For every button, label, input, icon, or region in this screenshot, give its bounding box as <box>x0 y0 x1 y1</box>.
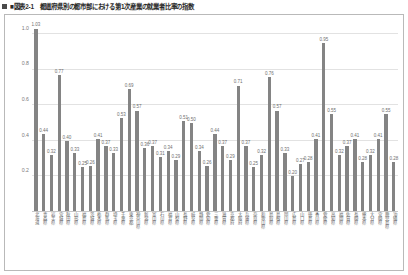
x-axis-tick-label: 福岡県 <box>337 212 342 224</box>
y-axis-tick-label: 0.4 <box>22 133 29 138</box>
bar[interactable]: 0.69 <box>128 89 131 212</box>
bar[interactable]: 0.20 <box>291 176 294 212</box>
bar[interactable]: 0.51 <box>182 121 185 212</box>
x-axis-tick-label: 滋賀県 <box>220 212 225 224</box>
x-axis-tick-label: 岐阜県 <box>189 212 194 224</box>
bar-slot: 0.31 <box>157 25 165 212</box>
bar-slot: 0.28 <box>390 25 398 212</box>
bar[interactable]: 0.95 <box>322 43 325 212</box>
x-axis-label-slot: 福岡県 <box>335 212 343 266</box>
bar[interactable]: 0.34 <box>167 151 170 212</box>
bar[interactable]: 0.34 <box>198 151 201 212</box>
bar[interactable]: 0.37 <box>221 146 224 212</box>
bar[interactable]: 0.25 <box>252 167 255 212</box>
bar[interactable]: 0.33 <box>112 153 115 212</box>
bar[interactable]: 0.37 <box>244 146 247 212</box>
x-axis-tick-label: 福島県 <box>80 212 85 224</box>
bar[interactable]: 0.32 <box>50 155 53 212</box>
bar[interactable]: 0.26 <box>205 166 208 212</box>
x-axis-label-slot: 石川県 <box>157 212 165 266</box>
bar[interactable]: 0.25 <box>81 167 84 212</box>
bar[interactable]: 0.57 <box>275 111 278 213</box>
bar-slot: 0.76 <box>265 25 273 212</box>
bar[interactable]: 0.55 <box>384 114 387 212</box>
bar[interactable]: 1.03 <box>34 29 37 212</box>
x-axis-tick-label: 奈良県 <box>251 212 256 224</box>
x-axis-tick-label: 富山県 <box>150 212 155 224</box>
bar[interactable]: 0.44 <box>42 134 45 212</box>
bar[interactable]: 0.37 <box>345 146 348 212</box>
bar[interactable]: 0.31 <box>159 157 162 212</box>
x-axis-label-slot: 大分県 <box>367 212 375 266</box>
bar-slot: 0.36 <box>141 25 149 212</box>
bar[interactable]: 0.44 <box>213 134 216 212</box>
bar-slot: 0.41 <box>374 25 382 212</box>
x-axis-tick-label: 栃木県 <box>96 212 101 224</box>
bar[interactable]: 0.33 <box>283 153 286 212</box>
bar[interactable]: 0.36 <box>143 148 146 212</box>
x-axis-label-slot: 島根県 <box>273 212 281 266</box>
y-axis-tick-label: 0.6 <box>22 97 29 102</box>
bar[interactable]: 0.32 <box>338 155 341 212</box>
bar[interactable]: 0.77 <box>58 75 61 212</box>
bar[interactable]: 0.40 <box>65 141 68 212</box>
bar[interactable]: 0.32 <box>260 155 263 212</box>
bar[interactable]: 0.28 <box>307 162 310 212</box>
bar-slot: 0.37 <box>219 25 227 212</box>
bar-slot: 0.41 <box>312 25 320 212</box>
bar[interactable]: 0.55 <box>330 114 333 212</box>
x-axis-label-slot: 大阪府 <box>234 212 242 266</box>
bar-slot: 0.37 <box>102 25 110 212</box>
x-axis-tick-label: 山梨県 <box>174 212 179 224</box>
bar[interactable]: 0.41 <box>96 139 99 212</box>
x-axis-label-slot: 長崎県 <box>351 212 359 266</box>
bar[interactable]: 0.28 <box>361 162 364 212</box>
chart-frame: 0.20.40.60.81.0 1.030.440.320.770.400.33… <box>4 14 404 271</box>
x-axis-label-slot: 三重県 <box>211 212 219 266</box>
x-axis-label-slot: 岐阜県 <box>188 212 196 266</box>
bar[interactable]: 0.27 <box>299 164 302 212</box>
x-axis-tick-label: 山形県 <box>72 212 77 224</box>
bar-slot: 0.25 <box>250 25 258 212</box>
x-axis-tick-label: 岡山県 <box>283 212 288 224</box>
bar[interactable]: 0.32 <box>369 155 372 212</box>
bar[interactable]: 0.57 <box>135 111 138 213</box>
bar[interactable]: 0.33 <box>73 153 76 212</box>
bar[interactable]: 0.29 <box>174 160 177 212</box>
bar-slot: 0.44 <box>40 25 48 212</box>
bar-slot: 0.37 <box>149 25 157 212</box>
bar[interactable]: 0.71 <box>237 86 240 212</box>
bar[interactable]: 0.41 <box>314 139 317 212</box>
page-title: ■図表2-1 都道府県別の都市部における第1次産業の就業者比率の指数 <box>10 2 194 11</box>
x-axis-tick-label: 大分県 <box>368 212 373 224</box>
bar[interactable]: 0.53 <box>120 118 123 212</box>
bar-slot: 0.28 <box>359 25 367 212</box>
x-axis-tick-label: 新潟県 <box>142 212 147 224</box>
x-axis-tick-label: 千葉県 <box>119 212 124 224</box>
bar-slot: 0.40 <box>63 25 71 212</box>
bar[interactable]: 0.37 <box>104 146 107 212</box>
x-axis-tick-label: 兵庫県 <box>244 212 249 224</box>
bar[interactable]: 0.29 <box>229 160 232 212</box>
bar[interactable]: 0.76 <box>268 77 271 212</box>
bar[interactable]: 0.26 <box>89 166 92 212</box>
bar-slot: 0.55 <box>328 25 336 212</box>
x-axis-label-slot: 新潟県 <box>141 212 149 266</box>
bar[interactable]: 0.41 <box>353 139 356 212</box>
x-axis-label-slot: 長野県 <box>180 212 188 266</box>
x-axis-label-slot: 熊本県 <box>359 212 367 266</box>
x-axis-label-slot: 兵庫県 <box>242 212 250 266</box>
x-axis-label-slot: 佐賀県 <box>343 212 351 266</box>
x-axis-tick-label: 愛媛県 <box>321 212 326 224</box>
x-axis-tick-label: 青森県 <box>41 212 46 224</box>
x-axis-label-slot: 京都府 <box>227 212 235 266</box>
x-axis-tick-label: 京都府 <box>228 212 233 224</box>
x-axis-tick-label: 群馬県 <box>104 212 109 224</box>
bar[interactable]: 0.41 <box>377 139 380 212</box>
bar-slot: 0.69 <box>125 25 133 212</box>
bar[interactable]: 0.28 <box>392 162 395 212</box>
x-axis-label-slot: 高知県 <box>328 212 336 266</box>
bar-slot: 0.34 <box>195 25 203 212</box>
bar[interactable]: 0.50 <box>190 123 193 212</box>
bar[interactable]: 0.37 <box>151 146 154 212</box>
